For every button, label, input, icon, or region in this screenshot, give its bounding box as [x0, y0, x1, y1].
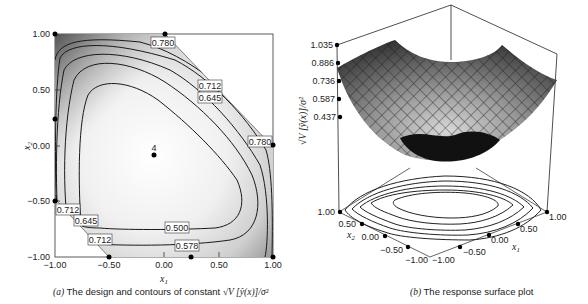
- svg-text:0.712: 0.712: [199, 81, 222, 91]
- contour-label: 0.645: [198, 92, 222, 103]
- x2-tick: 1.00: [317, 207, 335, 217]
- x-tick: −1.00: [44, 260, 67, 270]
- z-tick: 1.035: [310, 40, 333, 50]
- z-tick: 0.736: [312, 76, 335, 86]
- y-tick: 0.00: [32, 141, 50, 151]
- x2-axis-label: x2: [346, 229, 355, 242]
- x2-tick: 0.00: [361, 232, 379, 242]
- x2-axis-ticks: 1.00 0.50 0.00 −0.50 −1.00: [317, 207, 428, 265]
- contour-label: 0.780: [248, 136, 272, 147]
- y-tick: −0.50: [27, 196, 50, 206]
- contour-label: 0.500: [165, 222, 189, 233]
- svg-text:0.780: 0.780: [249, 137, 272, 147]
- z-axis-label: √V [ŷ(x)]/σ²: [297, 96, 309, 145]
- svg-text:0.578: 0.578: [176, 241, 199, 251]
- x1-tick: 0.50: [520, 224, 538, 234]
- svg-text:0.500: 0.500: [166, 223, 189, 233]
- svg-text:0.712: 0.712: [57, 205, 80, 215]
- x2-tick: 0.50: [338, 219, 356, 229]
- response-surface: [337, 40, 557, 162]
- x1-axis-label: x1: [511, 241, 520, 254]
- y-tick: 0.50: [32, 85, 50, 95]
- x-tick: 1.00: [264, 260, 282, 270]
- z-tick: 0.886: [311, 58, 334, 68]
- x2-tick: −0.50: [380, 245, 403, 255]
- svg-text:0.645: 0.645: [199, 93, 222, 103]
- x1-tick: 1.00: [549, 212, 567, 222]
- z-tick: 0.437: [313, 112, 336, 122]
- contour-label: 0.578: [175, 240, 199, 251]
- contour-label: 0.712: [88, 234, 112, 245]
- contour-label: 0.712: [56, 204, 80, 215]
- x1-tick: −0.50: [463, 247, 486, 257]
- x1-tick: 0.00: [491, 235, 509, 245]
- figure: 1.00 0.50 0.00 −0.50 −1.00 −1.00 −0.50 0…: [0, 0, 588, 304]
- x-tick: 0.00: [155, 260, 173, 270]
- x-tick: −0.50: [98, 260, 121, 270]
- svg-text:0.712: 0.712: [89, 235, 112, 245]
- x-axis-ticks: −1.00 −0.50 0.00 0.50 1.00: [44, 260, 282, 270]
- contour-label: 0.712: [198, 80, 222, 91]
- x2-tick: −1.00: [405, 255, 428, 265]
- contour-label: 0.780: [151, 37, 175, 48]
- x-axis-label: x1: [159, 273, 168, 286]
- x1-tick: −1.00: [432, 255, 455, 265]
- z-tick: 0.587: [312, 94, 335, 104]
- contour-label: 0.645: [74, 215, 98, 226]
- x1-axis-ticks: 1.00 0.50 0.00 −0.50 −1.00: [432, 212, 567, 265]
- contour-plot: 1.00 0.50 0.00 −0.50 −1.00 −1.00 −0.50 0…: [21, 29, 282, 286]
- svg-text:0.780: 0.780: [152, 38, 175, 48]
- center-point-label: 4: [151, 143, 156, 153]
- svg-text:0.645: 0.645: [75, 216, 98, 226]
- y-tick: 1.00: [32, 29, 50, 39]
- surface-plot: 1.035 0.886 0.736 0.587 0.437 √V [ŷ(x)]/…: [297, 5, 567, 265]
- caption-a: (a) The design and contours of constant …: [53, 286, 268, 297]
- z-axis-ticks: 1.035 0.886 0.736 0.587 0.437: [310, 40, 336, 122]
- x-tick: 0.50: [210, 260, 228, 270]
- caption-b: (b) The response surface plot: [410, 286, 533, 297]
